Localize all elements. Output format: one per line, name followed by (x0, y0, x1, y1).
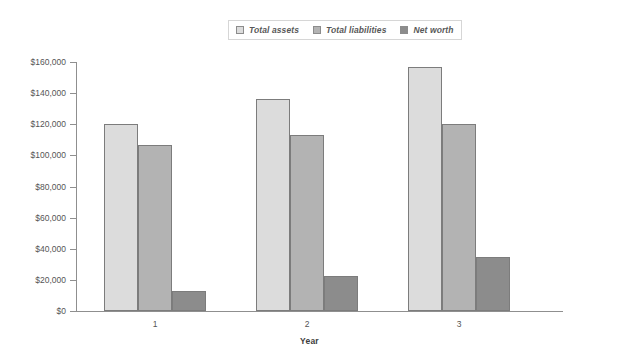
legend-swatch-total-assets (236, 26, 244, 34)
bar-total-liabilities-year-2[interactable] (290, 135, 324, 311)
y-axis-tick-label: $40,000 (35, 244, 66, 254)
y-axis-tick-label: $100,000 (31, 150, 66, 160)
y-axis-tick-label: $0 (57, 306, 66, 316)
y-axis-tick-label: $80,000 (35, 182, 66, 192)
y-axis-tick-label: $160,000 (31, 57, 66, 67)
bar-total-assets-year-3[interactable] (408, 67, 442, 311)
x-axis-category-label: 3 (457, 319, 462, 329)
x-axis-category-label: 1 (153, 319, 158, 329)
legend-label-net-worth: Net worth (413, 25, 453, 35)
y-axis-tick-label: $20,000 (35, 275, 66, 285)
bar-net-worth-year-2[interactable] (324, 276, 358, 311)
bar-total-liabilities-year-1[interactable] (138, 145, 172, 311)
x-axis-title: Year (0, 336, 619, 346)
bar-total-assets-year-2[interactable] (256, 99, 290, 311)
legend-swatch-total-liabilities (313, 26, 321, 34)
bar-net-worth-year-1[interactable] (172, 291, 206, 311)
y-axis-tick (70, 311, 76, 312)
legend-label-total-assets: Total assets (249, 25, 299, 35)
bar-net-worth-year-3[interactable] (476, 257, 510, 311)
legend-item-total-liabilities: Total liabilities (313, 25, 386, 35)
legend-label-total-liabilities: Total liabilities (326, 25, 386, 35)
y-axis-tick-label: $60,000 (35, 213, 66, 223)
legend-swatch-net-worth (400, 26, 408, 34)
legend-item-net-worth: Net worth (400, 25, 453, 35)
bar-total-assets-year-1[interactable] (104, 124, 138, 311)
bar-chart: Total assets Total liabilities Net worth… (0, 0, 619, 359)
plot-area (76, 62, 563, 311)
chart-legend: Total assets Total liabilities Net worth (228, 20, 462, 40)
bar-total-liabilities-year-3[interactable] (442, 124, 476, 311)
bar-group-year-1 (104, 124, 206, 311)
x-axis-line (76, 311, 563, 312)
y-axis-tick-label: $140,000 (31, 88, 66, 98)
y-axis-tick-label: $120,000 (31, 119, 66, 129)
legend-item-total-assets: Total assets (236, 25, 299, 35)
bar-group-year-2 (256, 99, 358, 311)
bar-group-year-3 (408, 67, 510, 311)
x-axis-category-label: 2 (305, 319, 310, 329)
